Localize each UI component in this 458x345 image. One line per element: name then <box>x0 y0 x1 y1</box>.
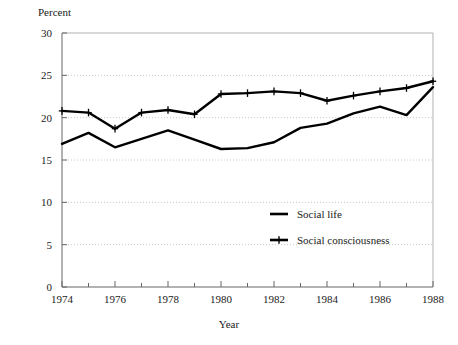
legend-item-social-consciousness: Social consciousness <box>297 235 390 246</box>
legend-item-social-life: Social life <box>297 209 342 220</box>
plot-area <box>0 0 458 345</box>
gridlines <box>62 75 433 244</box>
legend-markers <box>270 214 288 244</box>
chart-figure: Percent Year 051015202530 19741976197819… <box>0 0 458 345</box>
data-series <box>59 77 436 149</box>
